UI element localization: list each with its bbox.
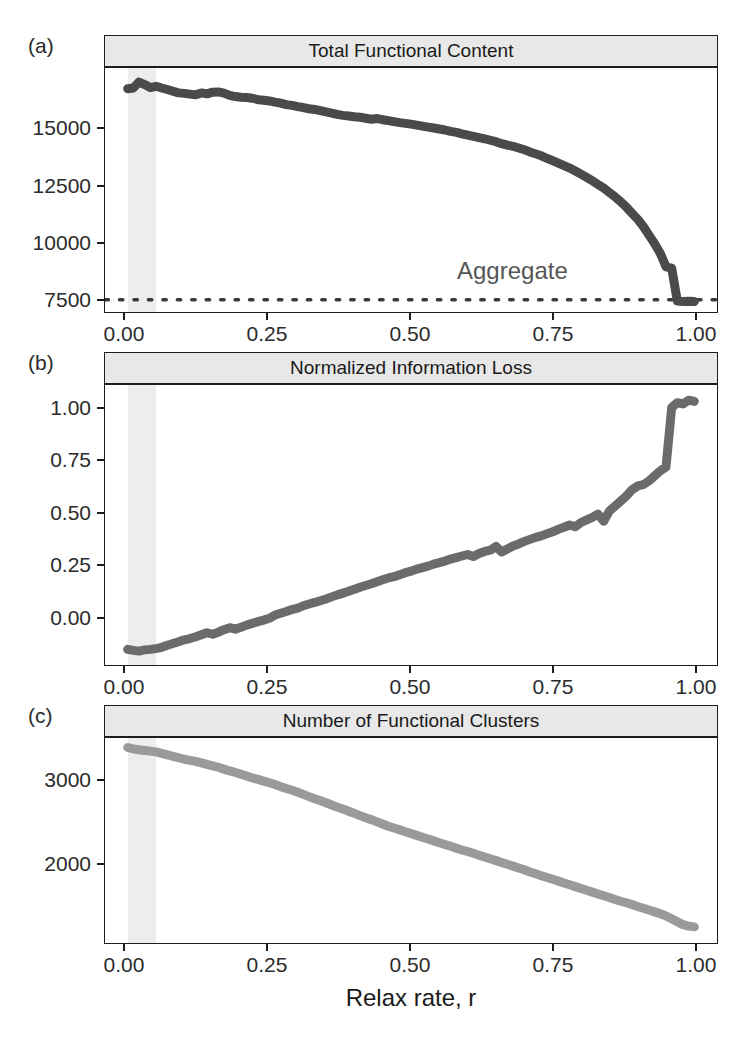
panel-c-xtick-label-0: 0.00 <box>104 953 145 977</box>
panel-b-xtick-mark-4 <box>695 666 697 673</box>
panel-b-xtick-label-2: 0.50 <box>390 675 431 699</box>
panel-c-ytick-mark-2000 <box>97 863 104 865</box>
panel-a-ytick-label-7500: 7500 <box>44 288 91 312</box>
panel-b-xtick-mark-0 <box>123 666 125 673</box>
panel-b-xtick-mark-3 <box>552 666 554 673</box>
panel-b-xtick-label-0: 0.00 <box>104 675 145 699</box>
panel-a-xtick-label-4: 1.00 <box>676 322 717 346</box>
panel-b-title: Normalized Information Loss <box>290 357 532 379</box>
panel-a-title: Total Functional Content <box>309 40 514 62</box>
panel-a-xtick-label-2: 0.50 <box>390 322 431 346</box>
panel-b-ytick-mark-050 <box>97 512 104 514</box>
panel-b-plot-area <box>104 385 718 666</box>
panel-c-xtick-mark-4 <box>695 944 697 951</box>
panel-label-c: (c) <box>28 704 53 728</box>
panel-a-trace-svg <box>105 68 717 312</box>
panel-a-xtick-mark-3 <box>552 313 554 320</box>
panel-b-data-line <box>128 400 695 651</box>
panel-a-xtick-label-1: 0.25 <box>247 322 288 346</box>
panel-b-ytick-mark-100 <box>97 407 104 409</box>
panel-a-ytick-mark-7500 <box>97 299 104 301</box>
panel-c-xtick-label-1: 0.25 <box>247 953 288 977</box>
panel-a-xtick-label-3: 0.75 <box>533 322 574 346</box>
panel-a-xtick-mark-0 <box>123 313 125 320</box>
panel-b-xtick-mark-1 <box>266 666 268 673</box>
panel-label-a: (a) <box>28 34 54 58</box>
panel-c-xtick-label-3: 0.75 <box>533 953 574 977</box>
panel-b-ytick-mark-025 <box>97 564 104 566</box>
panel-a-data-line <box>128 82 695 301</box>
panel-c-ytick-label-2000: 2000 <box>44 852 91 876</box>
panel-b-ytick-label-050: 0.50 <box>50 501 91 525</box>
panel-a-xtick-mark-2 <box>409 313 411 320</box>
panel-a-xtick-mark-1 <box>266 313 268 320</box>
panel-b-ytick-label-025: 0.25 <box>50 553 91 577</box>
figure-root: (a) Total Functional Content Aggregate 1… <box>0 0 750 1038</box>
panel-c-plot-area <box>104 738 718 944</box>
panel-a-xtick-mark-4 <box>695 313 697 320</box>
panel-c-ytick-mark-3000 <box>97 779 104 781</box>
panel-c-xtick-mark-1 <box>266 944 268 951</box>
panel-a-ytick-label-10000: 10000 <box>33 231 91 255</box>
panel-b-ytick-label-000: 0.00 <box>50 606 91 630</box>
panel-a-plot-area: Aggregate <box>104 68 718 313</box>
panel-a-strip-header: Total Functional Content <box>104 35 718 68</box>
panel-a-ytick-label-15000: 15000 <box>33 116 91 140</box>
panel-a-ytick-mark-15000 <box>97 127 104 129</box>
panel-c-ytick-label-3000: 3000 <box>44 768 91 792</box>
panel-label-b: (b) <box>28 351 54 375</box>
panel-c-strip-header: Number of Functional Clusters <box>104 705 718 738</box>
panel-a-xtick-label-0: 0.00 <box>104 322 145 346</box>
panel-b-xtick-label-4: 1.00 <box>676 675 717 699</box>
panel-b-strip-header: Normalized Information Loss <box>104 352 718 385</box>
panel-a-ytick-mark-10000 <box>97 242 104 244</box>
panel-a-ytick-label-12500: 12500 <box>33 174 91 198</box>
panel-b-ytick-mark-075 <box>97 459 104 461</box>
panel-b-trace-svg <box>105 385 717 665</box>
panel-a-ytick-mark-12500 <box>97 185 104 187</box>
panel-b-xtick-label-1: 0.25 <box>247 675 288 699</box>
aggregate-annotation: Aggregate <box>457 257 568 285</box>
panel-b-ytick-mark-000 <box>97 617 104 619</box>
panel-b-xtick-label-3: 0.75 <box>533 675 574 699</box>
panel-c-xtick-mark-0 <box>123 944 125 951</box>
panel-c-xtick-label-2: 0.50 <box>390 953 431 977</box>
panel-c-data-line <box>128 748 695 927</box>
panel-c-trace-svg <box>105 738 717 943</box>
panel-c-title: Number of Functional Clusters <box>283 710 540 732</box>
panel-b-ytick-label-100: 1.00 <box>50 396 91 420</box>
panel-c-xtick-mark-2 <box>409 944 411 951</box>
panel-b-ytick-label-075: 0.75 <box>50 448 91 472</box>
x-axis-title: Relax rate, r <box>346 984 477 1012</box>
panel-b-xtick-mark-2 <box>409 666 411 673</box>
panel-c-xtick-label-4: 1.00 <box>676 953 717 977</box>
panel-c-xtick-mark-3 <box>552 944 554 951</box>
